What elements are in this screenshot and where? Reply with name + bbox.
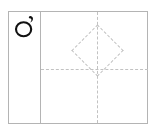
- practice-worksheet: [0, 0, 157, 133]
- model-character-cell[interactable]: [9, 12, 41, 123]
- worksheet-frame: [8, 11, 148, 124]
- circle-with-apostrophe-stroke-glyph: [12, 13, 38, 39]
- practice-box[interactable]: [41, 12, 147, 123]
